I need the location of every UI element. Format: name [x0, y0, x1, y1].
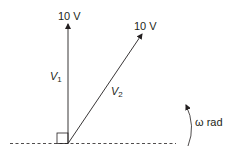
v1-magnitude-label: 10 V [58, 11, 81, 22]
v1-subscript: 1 [57, 75, 61, 84]
v2-subscript: 2 [118, 90, 122, 99]
phasor-v2-arrow [68, 34, 142, 144]
rotation-arrow-icon [186, 105, 192, 146]
right-angle-marker [57, 133, 68, 144]
rotation-label: ω rad [195, 117, 223, 128]
v1-label: V1 [50, 71, 62, 84]
phasor-diagram [0, 0, 230, 156]
v2-magnitude-label: 10 V [134, 21, 157, 32]
v2-label: V2 [111, 86, 123, 99]
